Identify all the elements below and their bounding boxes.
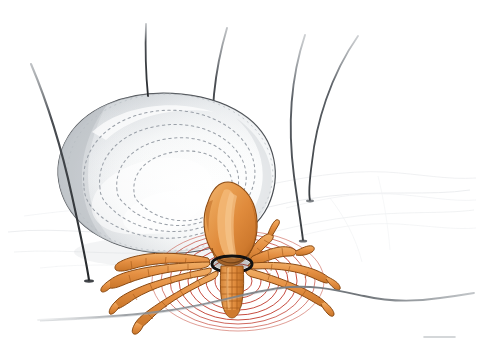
hair-5 <box>306 36 358 202</box>
hair-4 <box>291 35 307 243</box>
tick-illustration-canvas: Engorged tick feeding on skin <box>0 0 478 356</box>
hair-5-follicle <box>306 200 314 203</box>
leg-right-4-tarsus <box>321 302 334 316</box>
leg-left-2-tarsus <box>101 280 110 292</box>
leg-right-1-distal <box>268 220 279 236</box>
hair-2 <box>146 24 148 96</box>
tick-illustration-svg <box>0 0 478 356</box>
hypostome-tip <box>224 310 240 318</box>
leg-right-2-distal <box>296 246 314 256</box>
tick-legs-right <box>246 220 340 317</box>
hair-4-follicle <box>299 240 307 243</box>
hair-1-follicle <box>84 279 94 282</box>
